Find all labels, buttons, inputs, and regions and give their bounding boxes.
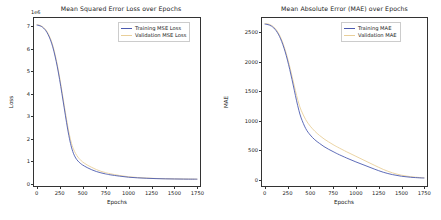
mae-chart: Mean Absolute Error (MAE) over Epochs 0 …	[220, 0, 441, 220]
legend-item-training-mse: Training MSE Loss	[121, 25, 186, 32]
legend-label-training-mse: Training MSE Loss	[135, 25, 181, 32]
curve-validation-mae	[265, 23, 425, 177]
curve-validation-mse	[37, 25, 198, 180]
legend-mse: Training MSE Loss Validation MSE Loss	[118, 22, 190, 42]
legend-item-validation-mse: Validation MSE Loss	[121, 32, 186, 39]
legend-item-validation-mae: Validation MAE	[344, 32, 397, 39]
curve-training-mae	[265, 24, 425, 178]
legend-label-validation-mae: Validation MAE	[358, 32, 397, 39]
legend-swatch-validation-mae	[344, 35, 355, 36]
mae-curves	[220, 0, 441, 220]
legend-label-training-mae: Training MAE	[358, 25, 391, 32]
legend-mae: Training MAE Validation MAE	[341, 22, 401, 42]
legend-swatch-validation-mse	[121, 35, 132, 36]
legend-swatch-training-mse	[121, 28, 132, 29]
legend-item-training-mae: Training MAE	[344, 25, 397, 32]
legend-swatch-training-mae	[344, 28, 355, 29]
figure-canvas: Mean Squared Error Loss over Epochs 1e6 …	[0, 0, 441, 220]
legend-label-validation-mse: Validation MSE Loss	[135, 32, 186, 39]
curve-training-mse	[37, 25, 198, 179]
mse-loss-chart: Mean Squared Error Loss over Epochs 1e6 …	[0, 0, 220, 220]
